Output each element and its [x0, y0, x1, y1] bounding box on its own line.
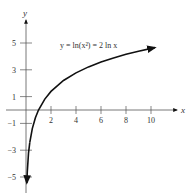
- equation-label: y = ln(x²) = 2 ln x: [60, 41, 117, 50]
- y-tick-label: 1: [12, 93, 16, 102]
- x-tick-label: 10: [147, 116, 155, 125]
- x-tick-label: 4: [74, 116, 78, 125]
- y-tick-label: −5: [7, 173, 16, 182]
- ticks: 246810531−1−3−5: [7, 39, 155, 182]
- y-tick-label: 5: [12, 39, 16, 48]
- y-tick-label: 3: [12, 66, 16, 75]
- y-tick-label: −3: [7, 146, 16, 155]
- x-tick-label: 6: [99, 116, 103, 125]
- x-tick-label: 2: [49, 116, 53, 125]
- x-tick-label: 8: [124, 116, 128, 125]
- x-axis-label: x: [180, 105, 185, 115]
- curve-2lnx: [30, 48, 155, 143]
- y-axis-label: y: [22, 8, 27, 18]
- chart: 246810531−1−3−5 y = ln(x²) = 2 ln x x y: [0, 0, 189, 193]
- y-tick-label: −1: [7, 119, 16, 128]
